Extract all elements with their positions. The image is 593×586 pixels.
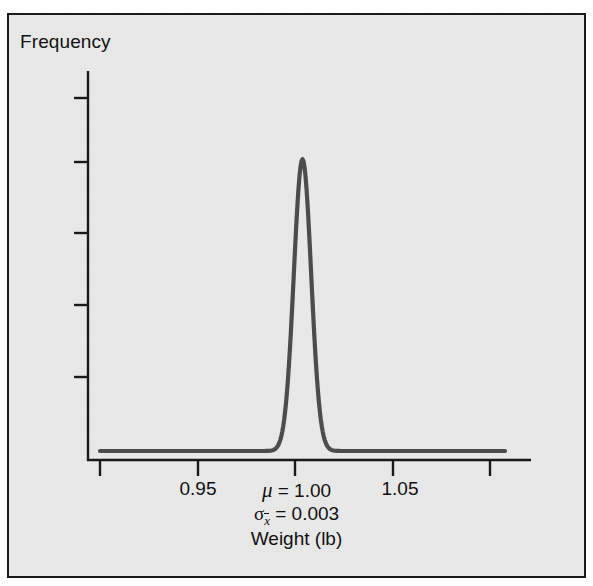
y-axis-title: Frequency — [20, 31, 111, 53]
sigma-value-text: = 0.003 — [270, 503, 339, 524]
x-axis-title: Weight (lb) — [0, 528, 593, 550]
sigma-symbol: σ — [254, 503, 264, 524]
sigma-xbar-annotation: σx = 0.003 — [0, 503, 593, 529]
figure-page: Frequency 0.95 1.05 μ = 1.00 σx = 0.003 … — [0, 0, 593, 586]
mu-symbol: μ — [262, 478, 273, 502]
overbar — [264, 513, 269, 515]
mu-value-text: = 1.00 — [272, 480, 331, 501]
xbar-subscript: x — [264, 513, 270, 528]
mu-annotation: μ = 1.00 — [0, 478, 593, 503]
xbar-letter: x — [264, 513, 270, 528]
normal-distribution-curve — [100, 159, 505, 451]
